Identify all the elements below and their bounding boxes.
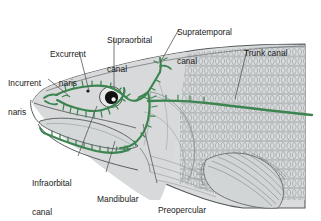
- label-trunk-canal-line1: Trunk canal: [244, 49, 287, 59]
- label-infraorbital-canal-line1: Infraorbital: [32, 179, 72, 189]
- label-preopercular-canal: Preopercular canal: [158, 187, 206, 221]
- label-preopercular-canal-line1: Preopercular: [158, 206, 206, 216]
- label-incurrent-naris: Incurrent naris: [8, 60, 41, 137]
- label-infraorbital-canal-line2: canal: [32, 208, 72, 218]
- label-excurrent-naris-line2: naris: [50, 79, 86, 89]
- figure-root: Incurrent naris Excurrent naris Supraorb…: [0, 0, 321, 221]
- label-supratemporal-canal: Supratemporal canal: [177, 9, 232, 86]
- label-infraorbital-canal: Infraorbital canal: [32, 160, 72, 221]
- label-trunk-canal: Trunk canal: [244, 30, 287, 78]
- label-excurrent-naris-line1: Excurrent: [50, 50, 86, 60]
- label-mandibular-canal-line1: Mandibular: [97, 195, 138, 205]
- label-supraorbital-canal-line1: Supraorbital: [107, 36, 152, 46]
- label-mandibular-canal: Mandibular canal: [97, 176, 138, 221]
- label-incurrent-naris-line2: naris: [8, 108, 41, 118]
- label-incurrent-naris-line1: Incurrent: [8, 79, 41, 89]
- label-supratemporal-canal-line1: Supratemporal: [177, 28, 232, 38]
- label-supraorbital-canal: Supraorbital canal: [107, 17, 152, 94]
- label-excurrent-naris: Excurrent naris: [50, 31, 86, 108]
- label-supratemporal-canal-line2: canal: [177, 57, 232, 67]
- label-supraorbital-canal-line2: canal: [107, 65, 152, 75]
